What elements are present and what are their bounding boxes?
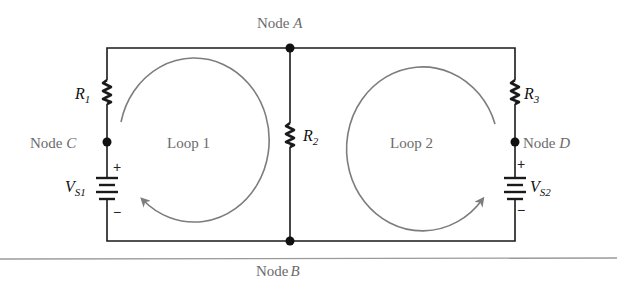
vs2-label: VS2 <box>530 178 551 198</box>
node-a-dot <box>286 44 295 53</box>
resistor-r3 <box>511 80 519 104</box>
r1-label: R1 <box>74 85 90 105</box>
resistor-r2 <box>286 123 294 147</box>
node-d-label: Node D <box>523 135 570 151</box>
r2-label: R2 <box>302 127 319 147</box>
loop1-label: Loop 1 <box>167 135 210 151</box>
vs2-plus: + <box>517 156 525 172</box>
node-c-dot <box>103 138 112 147</box>
battery-vs2 <box>504 175 526 204</box>
vs1-plus: + <box>113 159 121 175</box>
resistor-r1 <box>103 80 111 104</box>
battery-vs1 <box>96 175 118 204</box>
circuit-diagram: Node A NodeB Node C Node D Loop 1 Loop 2… <box>0 0 617 283</box>
node-d-dot <box>511 138 520 147</box>
separator-rule <box>0 258 617 259</box>
node-b-label: NodeB <box>256 263 300 279</box>
r3-label: R3 <box>523 85 540 105</box>
vs1-minus: − <box>113 204 121 220</box>
node-b-dot <box>286 237 295 246</box>
vs2-minus: − <box>517 202 525 218</box>
node-c-label: Node C <box>30 135 77 151</box>
vs1-label: VS1 <box>65 178 86 198</box>
node-a-label: Node A <box>257 15 303 31</box>
loop2-label: Loop 2 <box>390 135 433 151</box>
